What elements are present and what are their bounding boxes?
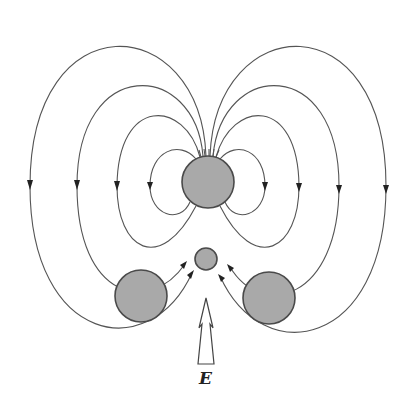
spheres (115, 156, 295, 324)
sphere-bottom-left (115, 270, 167, 322)
arrowhead-icon (296, 183, 302, 192)
dipole-field-diagram: E (0, 0, 409, 410)
e-field-arrow-icon (198, 298, 214, 364)
arrowhead-icon (27, 180, 33, 190)
arrowhead-icon (74, 180, 80, 190)
field-line-right-4 (210, 46, 386, 332)
arrowhead-icon (180, 261, 187, 269)
arrowhead-icon (383, 185, 389, 194)
sphere-bottom-right (243, 272, 295, 324)
arrowhead-icon (114, 181, 120, 191)
arrowhead-icon (147, 182, 153, 190)
arrowhead-icon (336, 185, 342, 194)
arrowhead-icon (187, 270, 194, 279)
right-field-lines (210, 46, 386, 332)
electric-field-arrow: E (198, 298, 214, 388)
arrowhead-icon (262, 182, 268, 191)
sphere-center-small (195, 248, 217, 270)
e-field-label: E (198, 368, 213, 388)
arrowhead-icon (218, 274, 225, 282)
sphere-central-large (182, 156, 234, 208)
